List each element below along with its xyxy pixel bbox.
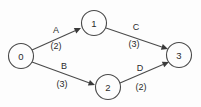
graph-diagram-canvas: 0123 A(2)C(3)B(3)D(2) [0, 0, 201, 107]
node-label-2: 2 [105, 82, 110, 93]
edge-weight-label-d: (2) [136, 82, 147, 92]
edge-weight-label-c: (3) [129, 39, 140, 49]
nodes-layer: 0123 [9, 11, 192, 100]
arrowhead-icon-b [88, 80, 95, 86]
node-label-0: 0 [18, 51, 23, 62]
node-label-1: 1 [91, 18, 96, 29]
arrowhead-icon-c [161, 44, 168, 50]
node-label-3: 3 [176, 50, 181, 61]
edge-weight-label-a: (2) [51, 41, 62, 51]
edge-name-label-d: D [137, 63, 144, 73]
edge-name-label-a: A [53, 25, 59, 35]
edge-name-label-b: B [61, 61, 67, 71]
edge-name-label-c: C [133, 22, 140, 32]
graph-svg: 0123 A(2)C(3)B(3)D(2) [0, 0, 201, 107]
edge-weight-label-b: (3) [57, 79, 68, 89]
